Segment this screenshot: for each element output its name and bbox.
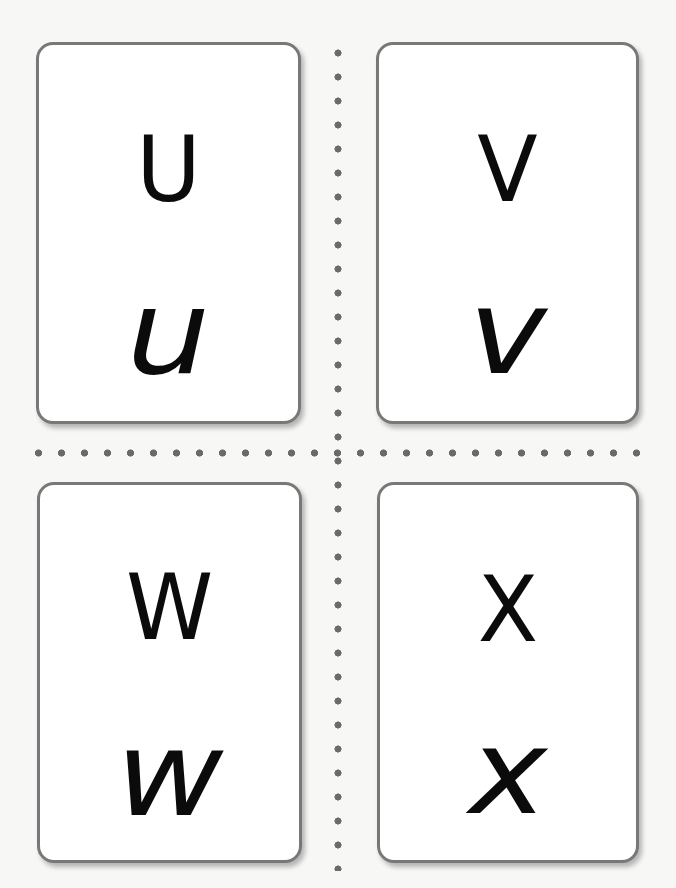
horizontal-cut-guide <box>27 448 650 458</box>
letter-card-v: V v <box>376 42 639 424</box>
uppercase-letter: W <box>43 563 297 653</box>
letter-card-u: U u <box>36 42 301 424</box>
lowercase-letter: u <box>23 273 313 391</box>
lowercase-letter: v <box>364 273 652 391</box>
letter-card-x: X x <box>377 482 639 863</box>
uppercase-letter: U <box>42 125 296 215</box>
lowercase-letter: x <box>365 713 652 831</box>
flashcard-sheet: U u V v W w X x <box>0 0 676 888</box>
uppercase-letter: V <box>382 125 634 215</box>
letter-card-w: W w <box>37 482 302 863</box>
uppercase-letter: X <box>383 565 634 655</box>
lowercase-letter: w <box>24 715 314 833</box>
